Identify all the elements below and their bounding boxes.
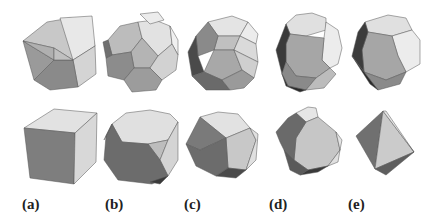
icosidodecahedron-top-c (188, 16, 258, 90)
octahedron-bottom-e (356, 111, 414, 175)
truncated-cube-bottom-b (104, 110, 178, 184)
truncated-dodecahedron-top-d (276, 13, 342, 92)
label-a: (a) (22, 196, 40, 213)
label-e: (e) (348, 196, 365, 213)
cube-bottom-a (24, 109, 97, 184)
label-b: (b) (105, 196, 123, 213)
dodecahedron-top-e (352, 15, 420, 90)
polyhedra-figure (0, 0, 442, 222)
truncated-icosahedron-top-b (103, 12, 178, 92)
icosahedron-top-a (23, 16, 96, 90)
label-c: (c) (184, 196, 201, 213)
truncated-octahedron-bottom-d (276, 107, 342, 175)
label-d: (d) (269, 196, 287, 213)
cuboctahedron-bottom-c (186, 112, 258, 178)
